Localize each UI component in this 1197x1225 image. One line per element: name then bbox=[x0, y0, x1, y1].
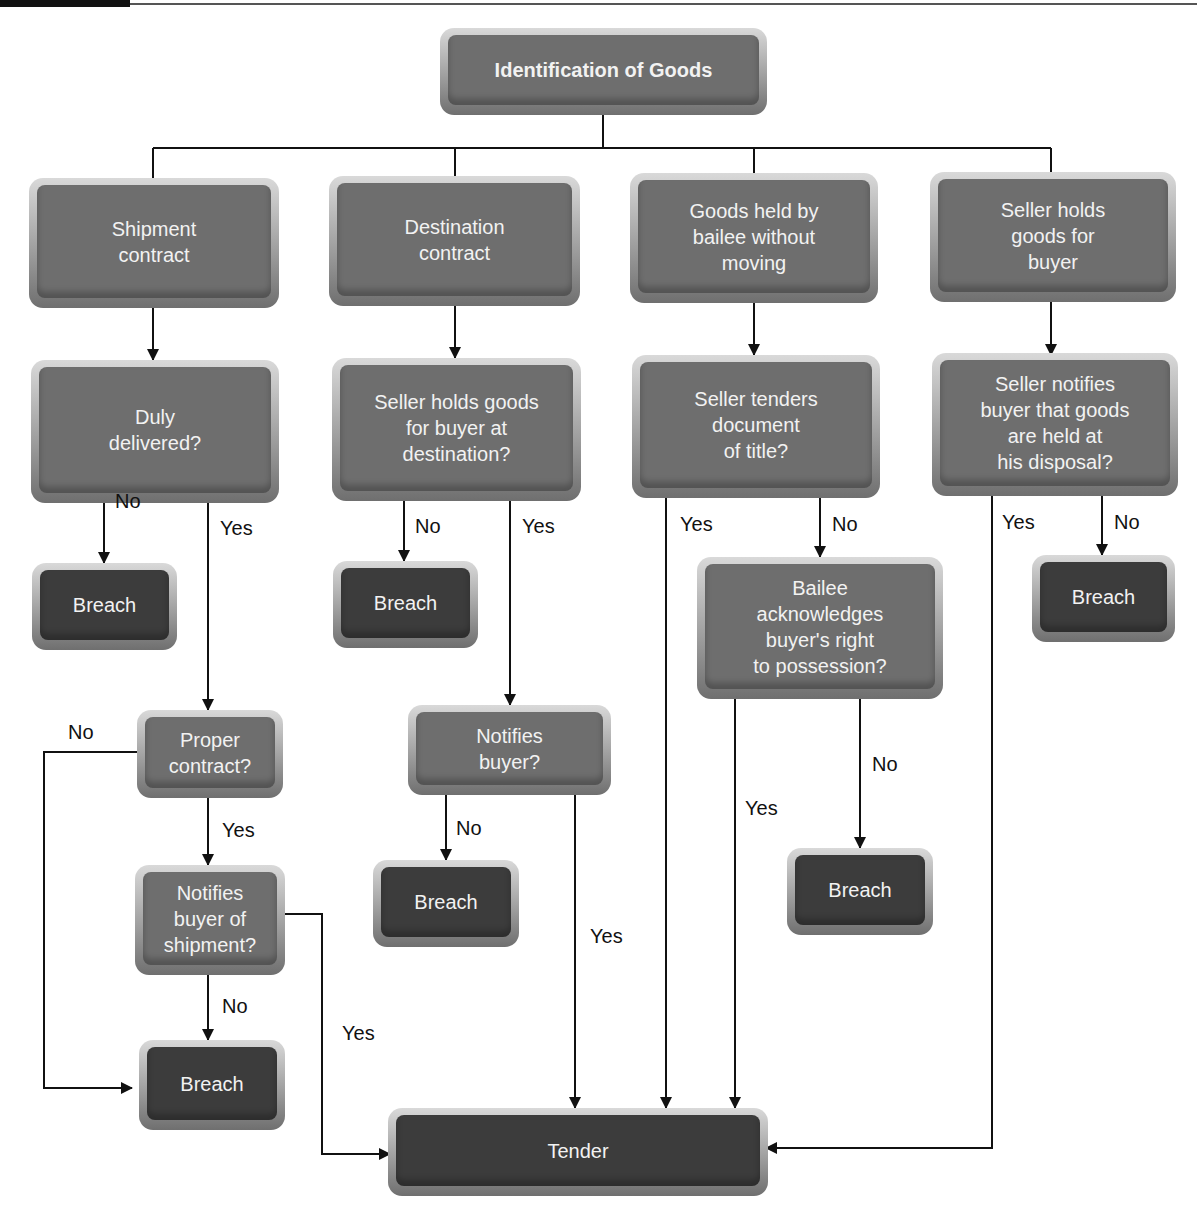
edge-label-no: No bbox=[872, 753, 898, 776]
edge-label-yes: Yes bbox=[222, 819, 255, 842]
edge-label-yes: Yes bbox=[590, 925, 623, 948]
edge-label-no: No bbox=[1114, 511, 1140, 534]
node-breach-5: Breach bbox=[787, 848, 933, 935]
edge-label-no: No bbox=[222, 995, 248, 1018]
edge-label-no: No bbox=[115, 490, 141, 513]
edge-label-yes: Yes bbox=[680, 513, 713, 536]
node-seller-holds-at-destination: Seller holds goods for buyer at destinat… bbox=[332, 358, 581, 501]
node-seller-holds-goods: Seller holds goods for buyer bbox=[930, 172, 1176, 302]
edge-label-yes: Yes bbox=[342, 1022, 375, 1045]
edge-label-yes: Yes bbox=[1002, 511, 1035, 534]
edge-label-no: No bbox=[832, 513, 858, 536]
node-seller-notifies-disposal: Seller notifies buyer that goods are hel… bbox=[932, 353, 1178, 496]
edge-label-no: No bbox=[456, 817, 482, 840]
node-tender: Tender bbox=[388, 1108, 768, 1196]
node-goods-held-by-bailee: Goods held by bailee without moving bbox=[630, 173, 878, 303]
node-seller-tenders-document: Seller tenders document of title? bbox=[632, 355, 880, 498]
edge-label-no: No bbox=[68, 721, 94, 744]
node-bailee-acknowledges: Bailee acknowledges buyer's right to pos… bbox=[697, 557, 943, 699]
edge-label-no: No bbox=[415, 515, 441, 538]
node-breach-1: Breach bbox=[32, 563, 177, 650]
node-proper-contract: Proper contract? bbox=[137, 710, 283, 798]
node-destination-contract: Destination contract bbox=[329, 176, 580, 306]
node-shipment-contract: Shipment contract bbox=[29, 178, 279, 308]
edge-label-yes: Yes bbox=[745, 797, 778, 820]
edge-label-yes: Yes bbox=[522, 515, 555, 538]
node-identification-of-goods: Identification of Goods bbox=[440, 28, 767, 115]
node-breach-2: Breach bbox=[333, 561, 478, 648]
edge-label-yes: Yes bbox=[220, 517, 253, 540]
node-notifies-buyer: Notifies buyer? bbox=[408, 705, 611, 795]
node-notifies-shipment: Notifies buyer of shipment? bbox=[135, 865, 285, 975]
node-breach-6: Breach bbox=[139, 1040, 285, 1130]
node-duly-delivered: Duly delivered? bbox=[31, 360, 279, 503]
node-breach-4: Breach bbox=[1032, 555, 1175, 642]
node-breach-3: Breach bbox=[373, 860, 519, 947]
